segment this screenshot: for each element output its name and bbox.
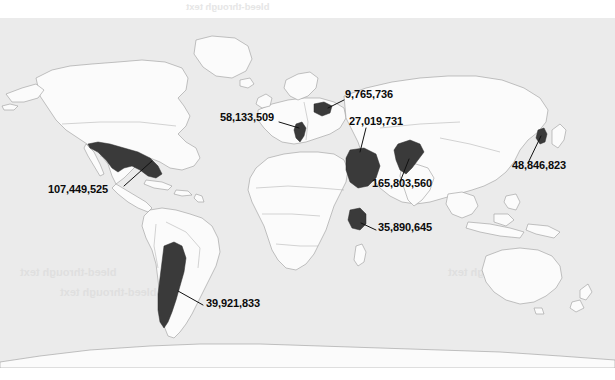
land-philippines: [504, 194, 520, 210]
land-hispaniola: [174, 190, 192, 196]
land-indonesia: [466, 222, 524, 238]
map-label-argentina: 39,921,833: [206, 298, 260, 309]
map-label-hungary: 9,765,736: [345, 89, 393, 100]
world-map-panel: bleed-through text bleed-through text bl…: [0, 18, 615, 368]
map-label-mexico: 107,449,525: [48, 184, 108, 195]
land-aleutians: [2, 104, 18, 110]
map-label-south-korea: 48,846,823: [512, 160, 566, 171]
land-japan: [552, 124, 566, 148]
land-british-isles: [256, 94, 272, 108]
figure-root: bleed-through text bleed-through text bl…: [0, 0, 615, 380]
map-label-saudi-arabia: 27,019,731: [349, 116, 403, 127]
land-new-zealand-south: [570, 300, 584, 312]
land-greenland: [194, 36, 252, 78]
map-label-italy: 58,133,509: [220, 112, 274, 123]
map-label-kenya: 35,890,645: [378, 222, 432, 233]
land-cuba: [144, 180, 172, 190]
land-africa: [248, 152, 348, 270]
land-iceland: [240, 78, 254, 88]
land-central-america: [112, 184, 152, 212]
ghost-text-top: bleed-through text: [186, 1, 269, 12]
land-new-guinea: [526, 224, 560, 238]
land-antarctica: [0, 344, 615, 368]
highlight-kenya: [348, 208, 366, 230]
land-tasmania: [534, 308, 544, 314]
land-borneo: [494, 214, 514, 226]
land-madagascar: [354, 244, 366, 266]
land-scandinavia: [284, 72, 318, 100]
land-southeast-asia: [446, 192, 478, 218]
land-alaska-panhandle: [6, 84, 44, 102]
land-new-zealand: [580, 284, 592, 300]
land-layer: [0, 36, 615, 368]
land-australia: [482, 248, 562, 304]
map-label-pakistan: 165,803,560: [372, 178, 432, 189]
land-lesser-antilles: [194, 194, 204, 202]
